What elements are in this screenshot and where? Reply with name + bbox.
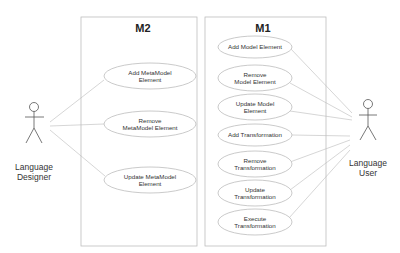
use-case-update-metamodel-element[interactable]: Update MetaModelElement — [104, 167, 196, 193]
system-title-m2: M2 — [135, 22, 150, 34]
stick-figure-icon — [359, 100, 377, 141]
use-case-remove-model-element[interactable]: RemoveModel Element — [218, 65, 292, 91]
use-case-remove-transformation[interactable]: RemoveTransformation — [218, 151, 292, 177]
use-case-add-model-element[interactable]: Add Model Element — [218, 36, 292, 58]
actor-label: LanguageUser — [349, 158, 387, 178]
association-user-add-model — [290, 48, 352, 113]
stick-figure-icon — [25, 103, 44, 144]
actor-language-user[interactable]: LanguageUser — [349, 100, 387, 179]
use-case-add-transformation[interactable]: Add Transformation — [218, 124, 292, 146]
associations — [50, 48, 352, 218]
system-title-m1: M1 — [255, 22, 270, 34]
use-case-label: Add Transformation — [228, 131, 283, 138]
association-user-update-model — [290, 111, 352, 120]
association-designer-update-metamodel — [50, 130, 105, 176]
use-case-execute-transformation[interactable]: ExecuteTransformation — [218, 209, 292, 235]
use-case-diagram: M2 M1 Add MetaModelElement RemoveMetaMod… — [0, 0, 400, 253]
use-case-remove-metamodel-element[interactable]: RemoveMetaModel Element — [104, 111, 196, 137]
use-case-label: Add Model Element — [228, 43, 282, 50]
association-user-add-transformation — [292, 135, 350, 136]
use-case-update-model-element[interactable]: Update ModelElement — [218, 94, 292, 120]
association-designer-add-metamodel — [50, 80, 104, 122]
actor-label: LanguageDesigner — [15, 162, 53, 182]
association-user-remove-transformation — [290, 140, 350, 162]
use-case-add-metamodel-element[interactable]: Add MetaModelElement — [104, 63, 196, 89]
association-user-remove-model — [290, 83, 352, 117]
association-designer-remove-metamodel — [50, 124, 104, 126]
use-case-update-transformation[interactable]: UpdateTransformation — [218, 180, 292, 206]
actor-language-designer[interactable]: LanguageDesigner — [15, 103, 53, 183]
